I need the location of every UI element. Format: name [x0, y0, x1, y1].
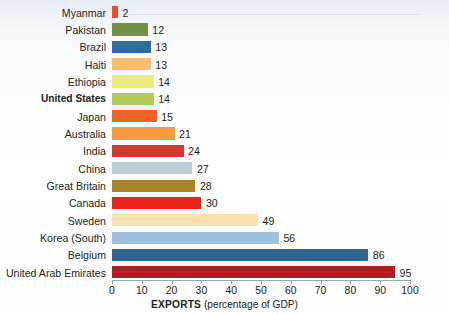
chart-row: Great Britain28 — [0, 180, 449, 197]
category-label-brazil: Brazil — [0, 41, 106, 53]
chart-row: Sweden49 — [0, 214, 449, 231]
category-label-united-arab-emirates: United Arab Emirates — [0, 267, 106, 279]
x-axis-tick — [350, 280, 351, 284]
bar-canada — [112, 197, 201, 209]
value-label-pakistan: 12 — [152, 24, 164, 36]
value-label-united-arab-emirates: 95 — [400, 267, 412, 279]
chart-row: Myanmar2 — [0, 6, 449, 23]
category-label-korea-south: Korea (South) — [0, 232, 106, 244]
plot-area: Myanmar2Pakistan12Brazil13Haiti13Ethiopi… — [0, 0, 449, 314]
chart-row: Pakistan12 — [0, 23, 449, 40]
chart-row: United States14 — [0, 93, 449, 110]
value-label-japan: 15 — [161, 111, 173, 123]
value-label-china: 27 — [197, 163, 209, 175]
value-label-korea-south: 56 — [283, 232, 295, 244]
x-axis-title-unit: (percentage of GDP) — [201, 299, 298, 310]
bar-belgium — [112, 249, 368, 261]
bar-haiti — [112, 58, 151, 70]
chart-row: India24 — [0, 145, 449, 162]
value-label-haiti: 13 — [155, 59, 167, 71]
category-label-ethiopia: Ethiopia — [0, 76, 106, 88]
category-label-china: China — [0, 163, 106, 175]
category-label-sweden: Sweden — [0, 215, 106, 227]
x-axis-tick — [112, 280, 113, 284]
value-label-united-states: 14 — [158, 93, 170, 105]
chart-row: Australia21 — [0, 127, 449, 144]
x-axis-tick — [410, 280, 411, 284]
chart-row: Canada30 — [0, 197, 449, 214]
bar-sweden — [112, 214, 258, 226]
bar-united-arab-emirates — [112, 266, 395, 278]
x-axis-tick — [201, 280, 202, 284]
category-label-haiti: Haiti — [0, 59, 106, 71]
x-axis-tick — [172, 280, 173, 284]
bar-japan — [112, 110, 157, 122]
bar-india — [112, 145, 184, 157]
bar-myanmar — [112, 6, 118, 18]
value-label-india: 24 — [188, 145, 200, 157]
x-axis-title: EXPORTS (percentage of GDP) — [0, 299, 449, 311]
chart-row: Belgium86 — [0, 249, 449, 266]
value-label-brazil: 13 — [155, 41, 167, 53]
value-label-sweden: 49 — [263, 215, 275, 227]
x-axis-tick — [142, 280, 143, 284]
bar-brazil — [112, 41, 151, 53]
value-label-australia: 21 — [179, 128, 191, 140]
category-label-canada: Canada — [0, 197, 106, 209]
chart-row: China27 — [0, 162, 449, 179]
chart-row: Ethiopia14 — [0, 75, 449, 92]
value-label-canada: 30 — [206, 197, 218, 209]
x-axis-tick — [321, 280, 322, 284]
value-label-myanmar: 2 — [122, 7, 128, 19]
x-axis-tick — [291, 280, 292, 284]
bar-great-britain — [112, 180, 195, 192]
chart-row: Brazil13 — [0, 41, 449, 58]
x-axis-tick — [261, 280, 262, 284]
x-axis-tick — [380, 280, 381, 284]
x-tick-label-100: 100 — [390, 285, 430, 297]
value-label-great-britain: 28 — [200, 180, 212, 192]
category-label-great-britain: Great Britain — [0, 180, 106, 192]
chart-row: Korea (South)56 — [0, 232, 449, 249]
bar-australia — [112, 127, 175, 139]
bar-united-states — [112, 93, 154, 105]
exports-bar-chart: Myanmar2Pakistan12Brazil13Haiti13Ethiopi… — [0, 0, 449, 314]
bar-pakistan — [112, 23, 148, 35]
chart-row: Japan15 — [0, 110, 449, 127]
bar-china — [112, 162, 192, 174]
category-label-pakistan: Pakistan — [0, 24, 106, 36]
category-label-australia: Australia — [0, 128, 106, 140]
category-label-united-states: United States — [0, 93, 106, 105]
category-label-india: India — [0, 145, 106, 157]
x-axis-title-bold: EXPORTS — [151, 299, 201, 310]
value-label-ethiopia: 14 — [158, 76, 170, 88]
bar-ethiopia — [112, 75, 154, 87]
category-label-myanmar: Myanmar — [0, 7, 106, 19]
bar-korea-south — [112, 232, 279, 244]
value-label-belgium: 86 — [373, 249, 385, 261]
category-label-japan: Japan — [0, 111, 106, 123]
category-label-belgium: Belgium — [0, 249, 106, 261]
x-axis-tick — [231, 280, 232, 284]
chart-row: Haiti13 — [0, 58, 449, 75]
